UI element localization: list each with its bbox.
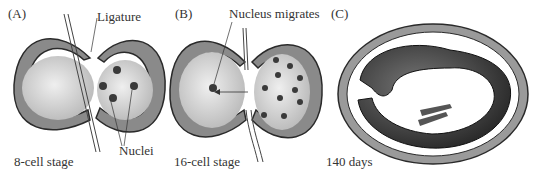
panel-c-letter: (C) (331, 6, 348, 22)
nuclei-label: Nuclei (119, 143, 154, 159)
figure-canvas (0, 0, 533, 178)
panel-a-letter: (A) (8, 6, 26, 22)
nucleus (99, 82, 107, 90)
migrating-nucleus (209, 84, 217, 92)
panel-c-caption: 140 days (326, 154, 373, 170)
panel-a-caption: 8-cell stage (14, 154, 74, 170)
panel-b-letter: (B) (175, 6, 192, 22)
cleaved-half (97, 60, 153, 120)
ligature-label: Ligature (97, 9, 141, 25)
uncleaved-half (22, 56, 94, 120)
panel-c-drawing (338, 24, 528, 164)
nucleus (130, 82, 138, 90)
nucleus (113, 66, 121, 74)
panel-b-caption: 16-cell stage (174, 154, 240, 170)
panel-b-drawing (170, 22, 322, 162)
panel-a-drawing (14, 14, 165, 152)
nucleus-migrates-label: Nucleus migrates (229, 6, 320, 22)
